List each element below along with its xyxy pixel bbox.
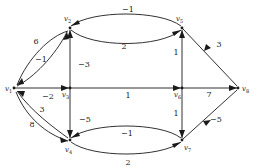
vertex-label-v8: v8 <box>242 85 249 94</box>
edge-v5-v2 <box>71 14 181 26</box>
edge-weight-v6-v5: 1 <box>173 48 178 57</box>
graph-canvas: 6 −1 −2 3 8 −1 2 −3 −5 1 1 1 3 7 −5 −1 2… <box>0 0 254 168</box>
vertex-dot-v5 <box>181 27 184 30</box>
edge-weight-v3-v6: 1 <box>125 91 130 100</box>
vertex-label-v3: v3 <box>62 91 69 100</box>
edge-weight-v7-v4: −1 <box>121 129 133 138</box>
edge-weight-v1-v3: −2 <box>42 92 54 101</box>
edge-v6-v5 <box>179 30 185 87</box>
edge-v4-v7 <box>71 142 181 154</box>
edge-weight-v4-v7: 2 <box>125 158 130 167</box>
vertex-dot-v8 <box>237 87 240 90</box>
directed-graph-figure: 6 −1 −2 3 8 −1 2 −3 −5 1 1 1 3 7 −5 −1 2… <box>0 0 254 168</box>
edge-weight-v1-v2: −1 <box>35 55 47 64</box>
edge-weight-v6-v8: 7 <box>206 90 211 99</box>
edge-v4-v7-arrowhead <box>172 142 181 148</box>
edge-v8-v5 <box>183 29 237 86</box>
vertex-dot-v4 <box>69 139 72 142</box>
edge-v8-v5-path <box>183 29 237 86</box>
edge-v1-v3 <box>15 85 69 91</box>
edge-weight-v2-v1: 6 <box>33 37 38 46</box>
vertex-dot-v3 <box>69 87 72 90</box>
edge-weight-v8-v5: 3 <box>216 40 221 49</box>
edge-weight-v1-v4: 8 <box>29 120 34 129</box>
edge-weight-v8-v7: −5 <box>210 115 222 124</box>
edge-weight-v2-v5: 2 <box>121 42 126 51</box>
edge-v4-v7-path <box>71 142 181 154</box>
edge-weight-v4-v1: 3 <box>39 105 44 114</box>
edge-v5-v2-arrowhead <box>71 20 80 26</box>
vertex-dot-v6 <box>181 87 184 90</box>
vertex-label-v7: v7 <box>184 144 191 153</box>
edge-weight-v3-v2: −3 <box>78 60 90 69</box>
vertex-label-v6: v6 <box>174 91 181 100</box>
vertex-dot-v1 <box>13 87 16 90</box>
vertex-label-v5: v5 <box>176 15 183 24</box>
edge-v8-v5-arrowhead <box>204 44 211 51</box>
edge-weight-v3-v4: −5 <box>79 115 91 124</box>
vertex-dot-v7 <box>181 139 184 142</box>
vertex-dot-v2 <box>69 27 72 30</box>
edge-weight-v6-v7: 1 <box>173 109 178 118</box>
edge-v6-v8-arrowhead <box>229 85 237 91</box>
vertex-label-v1: v1 <box>5 85 12 94</box>
edge-weight-v5-v2: −1 <box>122 5 134 14</box>
edge-v5-v2-path <box>71 14 181 26</box>
edge-v7-v4-arrowhead <box>71 132 80 138</box>
vertex-label-v4: v4 <box>65 146 72 155</box>
vertex-label-v2: v2 <box>64 15 71 24</box>
edge-v1-v4-arrowhead <box>60 137 68 143</box>
